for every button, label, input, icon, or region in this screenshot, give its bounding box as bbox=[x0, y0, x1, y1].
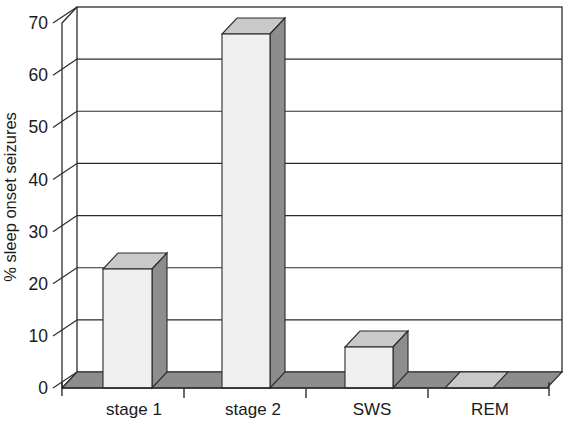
x-label-stage-1: stage 1 bbox=[106, 400, 162, 419]
x-label-rem: REM bbox=[471, 400, 509, 419]
y-axis-title: % sleep onset seizures bbox=[1, 112, 19, 282]
y-tick-label-10: 10 bbox=[29, 326, 49, 346]
x-label-sws: SWS bbox=[353, 400, 392, 419]
y-tick-50 bbox=[53, 111, 77, 127]
bar-stage-1-front bbox=[103, 269, 152, 388]
y-tick-label-60: 60 bbox=[29, 65, 49, 85]
y-tick-label-40: 40 bbox=[29, 170, 49, 190]
y-tick-label-70: 70 bbox=[29, 13, 49, 33]
bar-stage-2 bbox=[222, 18, 285, 388]
bar-stage-2-side bbox=[270, 18, 285, 388]
bar-stage-1-side bbox=[152, 253, 167, 388]
y-tick-label-30: 30 bbox=[29, 222, 49, 242]
bar-stage-1 bbox=[103, 253, 167, 388]
y-axis-tick-labels: 70 60 50 40 30 20 10 0 bbox=[29, 13, 49, 398]
y-tick-10 bbox=[53, 320, 77, 336]
bar-sws-front bbox=[345, 347, 393, 388]
y-tick-label-20: 20 bbox=[29, 274, 49, 294]
y-tick-20 bbox=[53, 268, 77, 284]
y-axis-ticks bbox=[53, 7, 77, 388]
bar-chart-sleep-onset-seizures: 70 60 50 40 30 20 10 0 % sleep onset sei… bbox=[0, 0, 572, 433]
y-tick-60 bbox=[53, 59, 77, 75]
y-tick-40 bbox=[53, 163, 77, 179]
x-axis-category-labels: stage 1 stage 2 SWS REM bbox=[106, 400, 509, 419]
bar-stage-2-front bbox=[222, 34, 270, 388]
x-label-stage-2: stage 2 bbox=[225, 400, 281, 419]
y-tick-30 bbox=[53, 216, 77, 232]
y-tick-label-50: 50 bbox=[29, 117, 49, 137]
chart-canvas: 70 60 50 40 30 20 10 0 % sleep onset sei… bbox=[0, 0, 572, 433]
bar-sws bbox=[345, 331, 408, 388]
y-tick-label-0: 0 bbox=[38, 378, 48, 398]
